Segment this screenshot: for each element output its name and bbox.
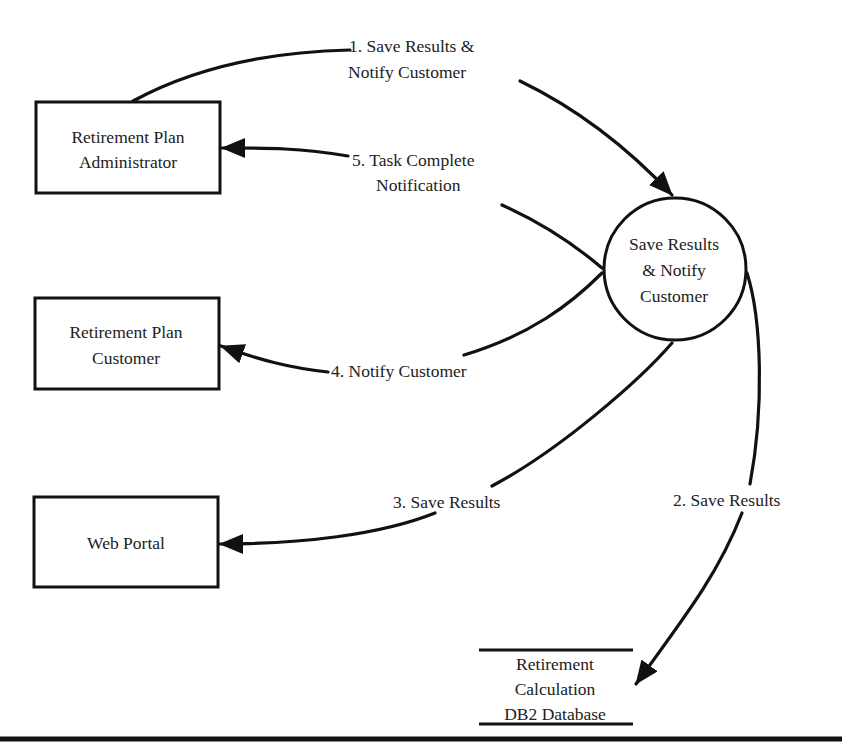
flow-label-line: 1. Save Results & (349, 36, 475, 56)
flow-label-line: 4. Notify Customer (331, 361, 467, 381)
flow-label-line: 5. Task Complete (352, 150, 475, 170)
process-label-line: & Notify (642, 260, 706, 280)
process-save-results-notify-customer[interactable]: Save Results & Notify Customer (604, 198, 746, 340)
process-label-line: Save Results (629, 234, 719, 254)
flow-4-notify-customer[interactable]: 4. Notify Customer (221, 273, 602, 381)
flow-5-task-complete-notification[interactable]: 5. Task Complete Notification (222, 148, 602, 268)
entity-label-line: Web Portal (87, 533, 165, 553)
entity-label-line: Customer (92, 348, 160, 368)
entity-web-portal[interactable]: Web Portal (34, 497, 218, 587)
entity-retirement-plan-customer[interactable]: Retirement Plan Customer (35, 298, 219, 389)
entity-retirement-plan-administrator[interactable]: Retirement Plan Administrator (36, 102, 220, 193)
flow-label-line: Notification (376, 175, 461, 195)
flow-label-line: 2. Save Results (673, 490, 781, 510)
flow-label-line: Notify Customer (348, 62, 466, 82)
datastore-retirement-calculation-db2[interactable]: Retirement Calculation DB2 Database (479, 650, 633, 724)
process-label-line: Customer (640, 286, 708, 306)
datastore-label-line: Retirement (516, 654, 594, 674)
datastore-label-line: Calculation (515, 679, 596, 699)
entity-label-line: Administrator (79, 152, 177, 172)
entity-label-line: Retirement Plan (69, 322, 182, 342)
data-flow-diagram: Retirement Plan Administrator Retirement… (0, 0, 842, 752)
entity-label-line: Retirement Plan (71, 127, 184, 147)
flow-label-line: 3. Save Results (393, 492, 501, 512)
datastore-label-line: DB2 Database (504, 704, 606, 724)
